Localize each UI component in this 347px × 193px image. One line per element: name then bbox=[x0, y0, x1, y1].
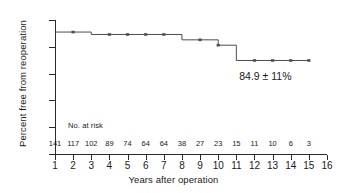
censor-mark bbox=[108, 33, 111, 36]
censor-mark bbox=[144, 33, 147, 36]
censor-mark bbox=[271, 59, 274, 62]
censor-mark bbox=[253, 59, 256, 62]
censor-mark bbox=[307, 59, 310, 62]
survival-curve bbox=[0, 0, 347, 193]
censor-mark bbox=[126, 33, 129, 36]
censor-mark bbox=[217, 44, 220, 47]
censor-mark bbox=[162, 33, 165, 36]
curve-annotation: 84.9 ± 11% bbox=[239, 70, 291, 82]
curve-line bbox=[55, 32, 309, 60]
censor-mark bbox=[289, 59, 292, 62]
kaplan-meier-chart: Percent free from reoperation Years afte… bbox=[0, 0, 347, 193]
censor-mark bbox=[198, 39, 201, 42]
censor-mark bbox=[72, 31, 75, 34]
